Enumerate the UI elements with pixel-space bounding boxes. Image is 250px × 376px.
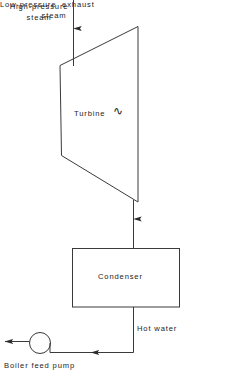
label-hot-water: Hot water <box>137 324 177 335</box>
turbine-wave-icon: ∿ <box>113 106 123 117</box>
label-high-pressure-steam: High-pressure steam <box>0 2 78 23</box>
label-turbine: Turbine <box>74 109 105 120</box>
label-condenser: Condenser <box>98 272 143 283</box>
process-flow-diagram: High-pressure steam Turbine ∿ Low-pressu… <box>0 0 250 376</box>
pipe-pump-inlet <box>50 343 92 353</box>
diagram-canvas <box>0 0 250 376</box>
boiler-feed-pump-symbol <box>30 333 51 354</box>
label-boiler-feed-pump: Boiler feed pump <box>4 361 75 372</box>
